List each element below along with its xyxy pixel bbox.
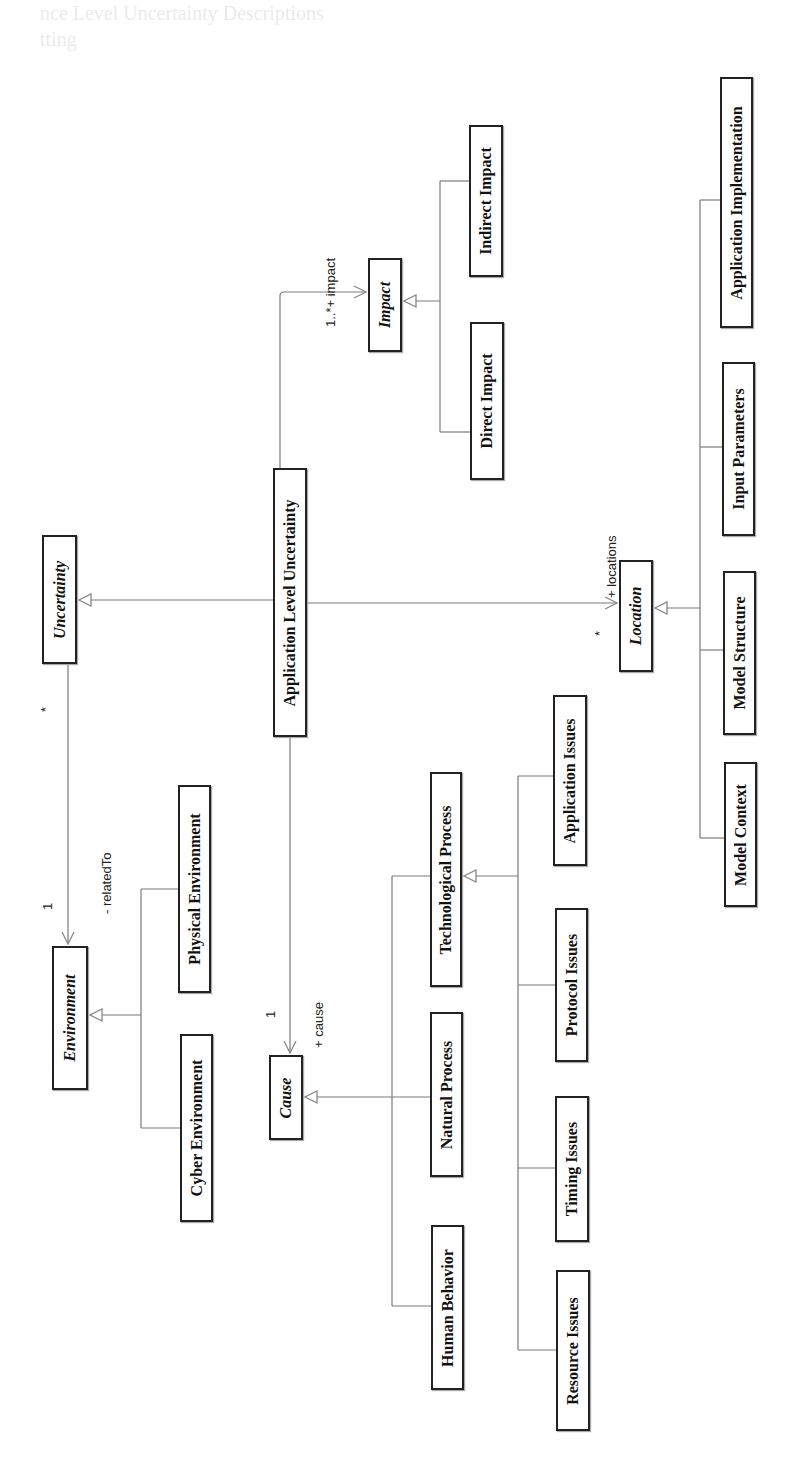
class-label: Model Context bbox=[732, 784, 750, 886]
class-physical-environment[interactable]: Physical Environment bbox=[178, 785, 211, 993]
class-environment[interactable]: Environment bbox=[52, 946, 88, 1090]
class-protocol-issues[interactable]: Protocol Issues bbox=[555, 908, 588, 1062]
class-cause[interactable]: Cause bbox=[269, 1055, 303, 1140]
class-label: Location bbox=[627, 587, 645, 646]
class-label: Application Level Uncertainty bbox=[281, 499, 299, 706]
class-label: Uncertainty bbox=[51, 560, 69, 638]
location-role-label: + locations bbox=[604, 535, 619, 598]
class-direct-impact[interactable]: Direct Impact bbox=[470, 322, 504, 480]
environment-multiplicity: 1 bbox=[40, 903, 55, 910]
class-label: Technological Process bbox=[437, 805, 455, 954]
connector-layer bbox=[0, 0, 791, 1481]
class-label: Impact bbox=[376, 282, 394, 328]
class-label: Environment bbox=[61, 974, 79, 1061]
class-application-implementation[interactable]: Application Implementation bbox=[720, 77, 753, 328]
class-label: Physical Environment bbox=[186, 813, 204, 964]
class-label: Resource Issues bbox=[564, 1297, 582, 1405]
location-multiplicity: * bbox=[592, 631, 607, 636]
class-label: Application Implementation bbox=[728, 106, 746, 299]
cause-multiplicity: 1 bbox=[263, 1011, 278, 1018]
class-uncertainty[interactable]: Uncertainty bbox=[42, 535, 77, 664]
class-label: Timing Issues bbox=[563, 1122, 581, 1216]
class-label: Model Structure bbox=[731, 596, 749, 709]
class-label: Protocol Issues bbox=[563, 934, 581, 1036]
impact-role-label: 1..*+ impact bbox=[323, 258, 338, 327]
class-label: Direct Impact bbox=[478, 353, 496, 448]
class-label: Human Behavior bbox=[439, 1249, 457, 1367]
class-label: Cyber Environment bbox=[188, 1060, 206, 1197]
class-label: Natural Process bbox=[438, 1040, 456, 1149]
class-application-level-uncertainty[interactable]: Application Level Uncertainty bbox=[273, 468, 307, 737]
class-cyber-environment[interactable]: Cyber Environment bbox=[180, 1034, 213, 1222]
class-human-behavior[interactable]: Human Behavior bbox=[431, 1225, 464, 1390]
class-natural-process[interactable]: Natural Process bbox=[430, 1012, 463, 1177]
cause-role-label: + cause bbox=[311, 1002, 326, 1048]
uncertainty-multiplicity: * bbox=[38, 707, 53, 712]
class-timing-issues[interactable]: Timing Issues bbox=[555, 1096, 589, 1242]
class-model-context[interactable]: Model Context bbox=[724, 762, 757, 907]
class-application-issues[interactable]: Application Issues bbox=[553, 695, 587, 866]
class-location[interactable]: Location bbox=[619, 560, 653, 672]
class-label: Input Parameters bbox=[730, 388, 748, 509]
class-label: Application Issues bbox=[561, 718, 579, 843]
class-impact[interactable]: Impact bbox=[368, 258, 402, 352]
class-label: Indirect Impact bbox=[477, 147, 495, 255]
class-resource-issues[interactable]: Resource Issues bbox=[556, 1270, 590, 1431]
class-input-parameters[interactable]: Input Parameters bbox=[722, 362, 755, 536]
class-technological-process[interactable]: Technological Process bbox=[430, 772, 462, 987]
class-model-structure[interactable]: Model Structure bbox=[723, 571, 756, 735]
class-label: Cause bbox=[277, 1077, 295, 1118]
class-indirect-impact[interactable]: Indirect Impact bbox=[469, 125, 503, 277]
environment-role-label: - relatedTo bbox=[99, 853, 114, 914]
